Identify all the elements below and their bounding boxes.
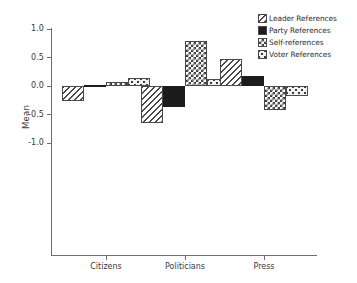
bar-press-leader-references xyxy=(220,59,242,86)
bar-citizens-voter-references xyxy=(128,78,150,87)
bar-citizens-leader-references xyxy=(62,86,84,101)
legend-label-party-references: Party References xyxy=(269,26,331,35)
x-tick-mark-politicians xyxy=(185,256,186,260)
bar-politicians-party-references xyxy=(163,86,185,107)
legend-swatch-party-references-icon xyxy=(258,26,267,35)
bar-press-party-references xyxy=(242,76,264,86)
legend-item-voter-references[interactable]: Voter References xyxy=(258,49,356,60)
x-tick-label-politicians: Politicians xyxy=(145,262,225,271)
y-tick-label-2: 0.5 xyxy=(14,53,44,62)
legend-swatch-self-references-icon xyxy=(258,38,267,47)
bar-press-voter-references xyxy=(286,86,308,96)
x-tick-mark-press xyxy=(264,256,265,260)
legend-item-self-references[interactable]: Self-references xyxy=(258,37,356,48)
legend-label-voter-references: Voter References xyxy=(269,50,331,59)
bar-politicians-self-references xyxy=(185,41,207,86)
legend-swatch-voter-references-icon xyxy=(258,50,267,59)
y-tick-label-4: -0.5 xyxy=(14,110,44,119)
bar-press-self-references xyxy=(264,86,286,110)
bar-citizens-party-references xyxy=(84,85,106,87)
y-tick-label-3: 0.0 xyxy=(14,81,44,90)
y-tick-label-1: 1.0 xyxy=(14,24,44,33)
y-tick-label-5: -1.0 xyxy=(14,138,44,147)
x-tick-mark-citizens xyxy=(106,256,107,260)
x-tick-label-press: Press xyxy=(224,262,304,271)
chart-legend: Leader References Party References Self-… xyxy=(258,13,356,61)
legend-label-leader-references: Leader References xyxy=(269,14,337,23)
y-axis-line xyxy=(51,28,52,256)
x-axis-line xyxy=(51,255,317,256)
legend-item-leader-references[interactable]: Leader References xyxy=(258,13,356,24)
legend-item-party-references[interactable]: Party References xyxy=(258,25,356,36)
bar-chart: Mean 1.0 0.5 0.0 -0.5 -1.0 Citizens Poli… xyxy=(0,0,357,283)
legend-label-self-references: Self-references xyxy=(269,38,324,47)
bar-citizens-self-references xyxy=(106,82,128,86)
legend-swatch-leader-references-icon xyxy=(258,14,267,23)
bar-politicians-leader-references xyxy=(141,86,163,123)
x-tick-label-citizens: Citizens xyxy=(66,262,146,271)
